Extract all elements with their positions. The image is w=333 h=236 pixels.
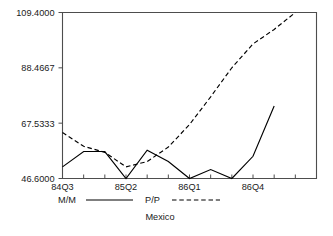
y-tick-label: 88.4667 <box>21 63 54 73</box>
series-line-mm <box>63 106 275 178</box>
x-tick-label: 84Q3 <box>51 182 73 192</box>
x-tick-label: 86Q4 <box>242 182 264 192</box>
series-line-pp <box>63 13 296 167</box>
x-tick-label: 86Q1 <box>178 182 200 192</box>
line-chart: 46.600067.533388.4667109.4000 84Q385Q286… <box>0 0 333 236</box>
x-tick-label: 85Q2 <box>115 182 137 192</box>
chart-title: Mexico <box>145 212 174 222</box>
legend-label-pp: P/P <box>145 195 160 205</box>
y-tick-label: 46.6000 <box>21 174 54 184</box>
y-tick-label: 109.4000 <box>16 8 54 18</box>
x-axis-labels: 84Q385Q286Q186Q4 <box>51 182 264 192</box>
y-axis-labels: 46.600067.533388.4667109.4000 <box>16 8 54 184</box>
y-axis-ticks <box>59 13 63 179</box>
y-tick-label: 67.5333 <box>21 119 54 129</box>
chart-figure: 46.600067.533388.4667109.4000 84Q385Q286… <box>0 0 333 236</box>
plot-frame <box>63 13 317 179</box>
legend-label-mm: M/M <box>58 195 76 205</box>
